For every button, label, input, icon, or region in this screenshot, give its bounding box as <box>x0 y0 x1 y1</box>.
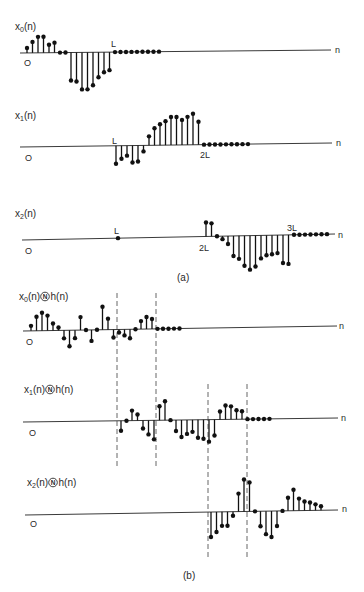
zero-sample <box>292 233 296 237</box>
tick-origin: O <box>25 153 32 163</box>
plot-label-tail: h(n) <box>59 477 77 488</box>
plot-label: x1(n) <box>15 110 36 122</box>
stem-sample <box>146 420 150 436</box>
stem-sample <box>264 235 268 257</box>
stem-sample <box>34 315 38 331</box>
stem-sample <box>240 409 244 419</box>
tick-L: L <box>114 226 119 236</box>
plot-label: x2(n) <box>27 477 48 489</box>
part-b-caption: (b) <box>183 570 195 581</box>
stem-sample <box>25 46 29 53</box>
stem-sample <box>209 512 213 539</box>
circular-convolution-operator-icon: N <box>46 385 55 394</box>
axis-label-n: n <box>339 321 344 331</box>
stem-sample <box>185 420 189 436</box>
stem-sample <box>215 234 219 238</box>
stem-sample <box>89 330 93 343</box>
stem-sample <box>223 403 227 419</box>
stem-sample <box>169 115 173 145</box>
stem-sample <box>147 134 151 145</box>
stem-sample <box>174 115 178 145</box>
stem-sample <box>204 220 208 236</box>
zero-sample <box>218 142 222 146</box>
stem-sample <box>259 235 263 260</box>
stem-sample <box>158 122 162 145</box>
stem-sample <box>209 221 213 236</box>
stem-sample <box>67 330 71 348</box>
stem-sample <box>141 420 145 430</box>
stem-sample <box>63 50 67 54</box>
plot-label: x2(n) <box>15 208 36 220</box>
axis-label-n: n <box>341 413 346 423</box>
stem-sample <box>229 404 233 419</box>
zero-sample <box>161 327 165 331</box>
stem-sample <box>225 512 229 528</box>
tick-L: L <box>111 39 116 49</box>
stem-sample <box>52 40 56 52</box>
zero-sample <box>113 50 117 54</box>
stem-sample <box>106 316 110 329</box>
stem-sample <box>302 499 306 510</box>
circular-convolution-operator-icon: N <box>41 292 50 301</box>
zero-sample <box>155 327 159 331</box>
stem-sample <box>218 409 222 419</box>
stem-sample <box>125 146 129 158</box>
stem-sample <box>124 418 128 422</box>
stem-sample <box>196 120 200 145</box>
stem-sample <box>297 496 301 510</box>
stem-sample <box>214 512 218 534</box>
stem-sample <box>69 53 73 83</box>
axis-label-n: n <box>335 45 340 55</box>
zero-sample <box>325 232 329 236</box>
n-axis <box>25 510 338 515</box>
stem-sample <box>139 319 143 329</box>
stem-sample <box>201 420 205 441</box>
stem-sample <box>47 43 51 53</box>
plot-x1-conv-h: x1(n) N h(n) O n <box>23 384 346 444</box>
circular-convolution-operator-icon: N <box>49 478 58 487</box>
plot-label-tail: h(n) <box>56 384 74 395</box>
stem-sample <box>275 235 279 255</box>
stem-sample <box>30 40 34 53</box>
stem-sample <box>95 328 99 332</box>
stem-sample <box>117 329 121 334</box>
axis-label-n: n <box>336 138 341 148</box>
zero-sample <box>140 50 144 54</box>
stem-sample <box>58 50 62 54</box>
stem-sample <box>281 235 285 265</box>
stem-sample <box>280 509 284 513</box>
stem-sample <box>74 52 78 83</box>
stem-sample <box>269 511 273 539</box>
stem-sample <box>185 115 189 145</box>
tick-origin: O <box>29 428 36 438</box>
zero-sample <box>177 326 181 330</box>
tick-origin: O <box>26 337 33 347</box>
tick-2L: 2L <box>199 243 209 253</box>
stem-sample <box>150 317 154 329</box>
stem-sample <box>247 480 251 511</box>
zero-sample <box>262 417 266 421</box>
zero-sample <box>129 50 133 54</box>
stem-sample <box>51 321 55 330</box>
stem-sample <box>144 315 148 329</box>
stem-sample <box>207 420 211 444</box>
stem-samples <box>116 220 329 272</box>
stem-sample <box>107 52 111 72</box>
plot-x0-conv-h: x0(n) N h(n) O n <box>19 291 344 348</box>
stem-sample <box>190 420 194 434</box>
overlap-add-figure: x0(n) O L n x1(n) O L 2L n x2(n) O L 2L … <box>0 0 364 592</box>
stem-samples <box>209 477 323 539</box>
stem-sample <box>130 408 134 420</box>
part-a-caption: (a) <box>177 272 189 283</box>
zero-sample <box>151 50 155 54</box>
stem-sample <box>286 235 290 266</box>
stem-sample <box>231 236 235 258</box>
zero-sample <box>297 232 301 236</box>
stem-sample <box>100 305 104 330</box>
stem-sample <box>152 126 156 145</box>
plot-label-tail: h(n) <box>51 291 69 302</box>
stem-sample <box>319 504 323 510</box>
stem-sample <box>270 235 274 256</box>
tick-origin: O <box>24 58 31 68</box>
stem-sample <box>119 146 123 161</box>
